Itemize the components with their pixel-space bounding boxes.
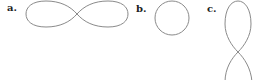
panel-c-figure-eight	[225, 1, 252, 80]
figure-panels: a. b. c.	[0, 0, 257, 80]
panel-b-circle	[155, 1, 189, 35]
panel-a-lemniscate	[26, 1, 128, 27]
shapes-canvas	[0, 0, 257, 80]
